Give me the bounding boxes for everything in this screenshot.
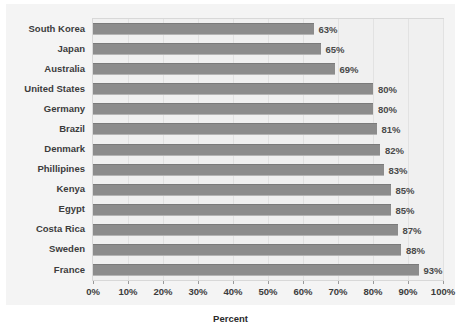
bar[interactable]: 80% — [93, 83, 373, 95]
bar[interactable]: 85% — [93, 184, 391, 196]
bar-row[interactable]: 87% — [93, 220, 443, 240]
bar-value-label: 93% — [424, 265, 443, 276]
x-tick-mark — [373, 281, 374, 284]
bar-chart-figure: South KoreaJapanAustraliaUnited StatesGe… — [0, 0, 461, 330]
bar-row[interactable]: 85% — [93, 200, 443, 220]
bar-series: 63%65%69%80%80%81%82%83%85%85%87%88%93% — [93, 19, 443, 280]
x-tick-mark — [268, 281, 269, 284]
x-tick-label: 100% — [431, 286, 455, 297]
bar[interactable]: 81% — [93, 123, 377, 135]
category-axis-labels: South KoreaJapanAustraliaUnited StatesGe… — [6, 18, 88, 281]
x-tick-label: 0% — [86, 286, 100, 297]
bar-row[interactable]: 82% — [93, 139, 443, 159]
category-label: France — [6, 259, 88, 279]
x-tick-label: 90% — [398, 286, 417, 297]
category-label: United States — [6, 78, 88, 98]
bar-value-label: 81% — [382, 124, 401, 135]
bar-value-label: 80% — [378, 84, 397, 95]
bar-row[interactable]: 65% — [93, 39, 443, 59]
category-label: Egypt — [6, 199, 88, 219]
chart-panel: South KoreaJapanAustraliaUnited StatesGe… — [6, 4, 455, 305]
x-axis: 0%10%20%30%40%50%60%70%80%90%100% — [92, 281, 444, 305]
bar-value-label: 87% — [403, 224, 422, 235]
x-tick-mark — [443, 281, 444, 284]
gridline — [443, 19, 444, 280]
bar-value-label: 80% — [378, 104, 397, 115]
bar-row[interactable]: 80% — [93, 79, 443, 99]
x-tick-mark — [408, 281, 409, 284]
plot-area: 63%65%69%80%80%81%82%83%85%85%87%88%93% — [92, 18, 444, 281]
x-tick-mark — [198, 281, 199, 284]
bar[interactable]: 82% — [93, 144, 380, 156]
category-label: Denmark — [6, 138, 88, 158]
category-label: Costa Rica — [6, 219, 88, 239]
category-label: Australia — [6, 58, 88, 78]
category-label: South Korea — [6, 18, 88, 38]
bar[interactable]: 69% — [93, 63, 335, 75]
x-tick-mark — [93, 281, 94, 284]
x-tick-label: 70% — [328, 286, 347, 297]
x-tick-label: 50% — [258, 286, 277, 297]
bar[interactable]: 83% — [93, 164, 384, 176]
bar-row[interactable]: 81% — [93, 119, 443, 139]
bar-row[interactable]: 83% — [93, 160, 443, 180]
bar-row[interactable]: 85% — [93, 180, 443, 200]
x-tick-label: 20% — [153, 286, 172, 297]
bar-value-label: 65% — [326, 44, 345, 55]
bar-row[interactable]: 80% — [93, 99, 443, 119]
bar-row[interactable]: 93% — [93, 260, 443, 280]
bar-value-label: 69% — [340, 64, 359, 75]
category-label: Sweden — [6, 239, 88, 259]
bar-value-label: 83% — [389, 164, 408, 175]
x-tick-mark — [233, 281, 234, 284]
x-tick-label: 10% — [118, 286, 137, 297]
category-label: Germany — [6, 98, 88, 118]
bar-row[interactable]: 63% — [93, 19, 443, 39]
x-tick-label: 60% — [293, 286, 312, 297]
x-tick-label: 80% — [363, 286, 382, 297]
x-tick-mark — [163, 281, 164, 284]
bar[interactable]: 65% — [93, 43, 321, 55]
bar[interactable]: 93% — [93, 264, 419, 276]
x-tick-mark — [128, 281, 129, 284]
x-tick-label: 40% — [223, 286, 242, 297]
bar-value-label: 63% — [319, 24, 338, 35]
bar-row[interactable]: 69% — [93, 59, 443, 79]
bar[interactable]: 63% — [93, 23, 314, 35]
x-tick-mark — [338, 281, 339, 284]
x-axis-title: Percent — [6, 313, 455, 324]
bar-value-label: 88% — [406, 244, 425, 255]
x-tick-label: 30% — [188, 286, 207, 297]
category-label: Phillipines — [6, 159, 88, 179]
category-label: Kenya — [6, 179, 88, 199]
bar-value-label: 85% — [396, 184, 415, 195]
bar[interactable]: 87% — [93, 224, 398, 236]
category-label: Japan — [6, 38, 88, 58]
bar-value-label: 82% — [385, 144, 404, 155]
bar[interactable]: 88% — [93, 244, 401, 256]
bar[interactable]: 85% — [93, 204, 391, 216]
bar-value-label: 85% — [396, 204, 415, 215]
category-label: Brazil — [6, 118, 88, 138]
bar[interactable]: 80% — [93, 103, 373, 115]
x-tick-mark — [303, 281, 304, 284]
bar-row[interactable]: 88% — [93, 240, 443, 260]
